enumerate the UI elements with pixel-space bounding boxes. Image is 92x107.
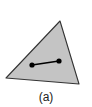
segment-endpoint-dot: [29, 62, 34, 67]
triangle: [6, 21, 79, 84]
figure-caption: (a): [0, 90, 92, 104]
segment-endpoint-dot: [56, 58, 61, 63]
